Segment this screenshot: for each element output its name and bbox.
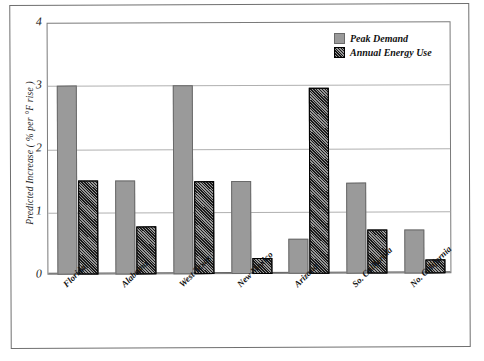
legend-label-peak-demand: Peak Demand xyxy=(350,33,408,44)
bar-group xyxy=(172,22,214,274)
bar[interactable] xyxy=(78,180,98,275)
bar-group xyxy=(57,23,99,275)
y-axis-title: Predicted Increase ( % per °F rise ) xyxy=(25,48,35,258)
bar[interactable] xyxy=(346,183,366,274)
bar[interactable] xyxy=(231,181,251,274)
chart-legend: Peak Demand Annual Energy Use xyxy=(334,33,454,61)
peak-demand-swatch-icon xyxy=(334,33,345,44)
bar[interactable] xyxy=(404,229,424,273)
legend-item-peak-demand: Peak Demand xyxy=(334,33,454,44)
legend-label-annual-energy-use: Annual Energy Use xyxy=(350,47,432,58)
bar-group xyxy=(115,22,157,274)
legend-item-annual-energy-use: Annual Energy Use xyxy=(334,47,454,58)
chart-screenshot: Predicted Increase ( % per °F rise ) 4 3… xyxy=(0,0,484,361)
bar-group xyxy=(230,22,272,274)
bar[interactable] xyxy=(173,85,194,274)
annual-energy-use-swatch-icon xyxy=(334,47,345,58)
bar-group xyxy=(288,22,330,274)
bar[interactable] xyxy=(309,88,330,274)
bar[interactable] xyxy=(57,86,78,275)
bar[interactable] xyxy=(115,180,135,275)
